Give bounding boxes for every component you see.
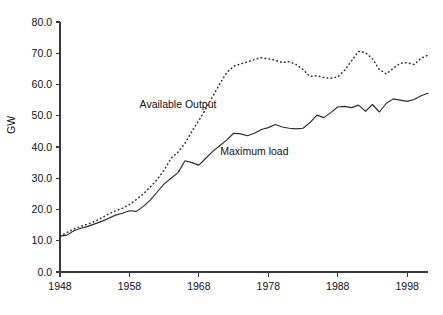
- x-tick-label: 1948: [48, 280, 72, 292]
- y-tick-marks: [56, 22, 61, 272]
- x-tick-marks: [60, 272, 407, 277]
- x-tick-labels: 194819581968197819881998: [48, 280, 419, 292]
- series-group: [60, 51, 428, 236]
- x-tick-label: 1998: [395, 280, 419, 292]
- x-axis-group: 194819581968197819881998: [48, 272, 428, 292]
- x-tick-label: 1968: [187, 280, 211, 292]
- y-tick-label: 60.0: [32, 78, 53, 90]
- chart-svg: 0.010.020.030.040.050.060.070.080.0 GW 1…: [0, 0, 443, 315]
- annotation-available-output: Available Output: [140, 98, 217, 110]
- y-tick-label: 20.0: [32, 203, 53, 215]
- y-axis-group: 0.010.020.030.040.050.060.070.080.0 GW: [5, 16, 60, 278]
- series-annotations: Available OutputMaximum load: [140, 98, 289, 157]
- chart-figure: 0.010.020.030.040.050.060.070.080.0 GW 1…: [0, 0, 443, 315]
- series-line-maximum-load: [60, 93, 428, 236]
- x-tick-label: 1958: [118, 280, 142, 292]
- y-tick-label: 80.0: [32, 16, 53, 28]
- series-line-available-output: [60, 51, 428, 235]
- y-tick-label: 10.0: [32, 234, 53, 246]
- x-tick-label: 1978: [257, 280, 281, 292]
- y-tick-label: 70.0: [32, 47, 53, 59]
- y-tick-labels: 0.010.020.030.040.050.060.070.080.0: [32, 16, 53, 278]
- x-tick-label: 1988: [326, 280, 350, 292]
- y-tick-label: 30.0: [32, 172, 53, 184]
- y-axis-title: GW: [5, 116, 17, 134]
- annotation-maximum-load: Maximum load: [220, 145, 288, 157]
- y-tick-label: 40.0: [32, 141, 53, 153]
- y-tick-label: 50.0: [32, 109, 53, 121]
- y-tick-label: 0.0: [37, 266, 52, 278]
